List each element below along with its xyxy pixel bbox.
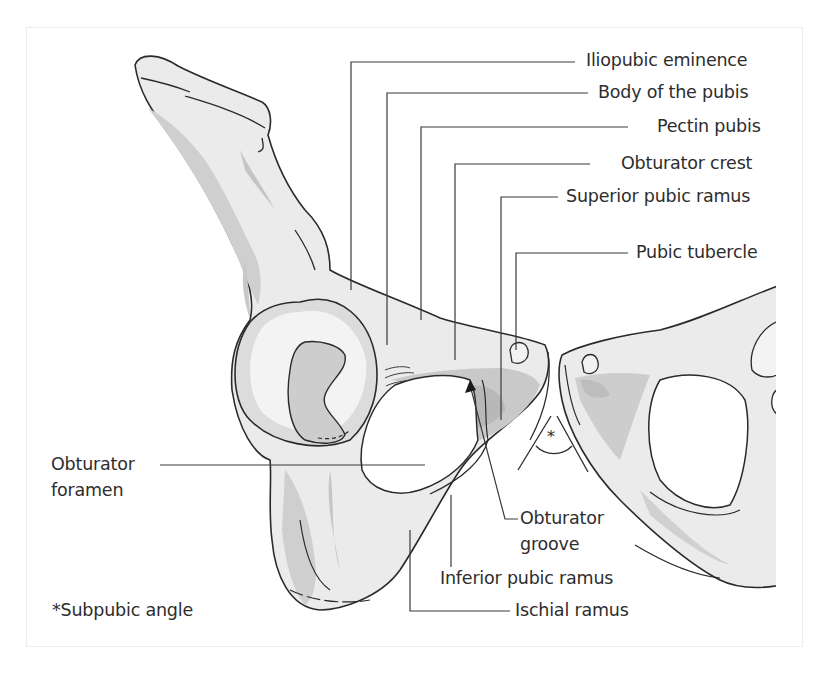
leader-body-of-pubis bbox=[387, 93, 588, 345]
label-obturator-foramen-line1: Obturator bbox=[51, 454, 135, 475]
label-iliopubic-eminence: Iliopubic eminence bbox=[586, 50, 747, 71]
left-hip-bone bbox=[135, 56, 549, 610]
label-superior-pubic-ramus: Superior pubic ramus bbox=[566, 186, 750, 207]
legend-subpubic-angle: *Subpubic angle bbox=[52, 600, 193, 621]
label-obturator-foramen-line2: foramen bbox=[51, 480, 123, 501]
leader-pectin-pubis bbox=[421, 127, 628, 320]
label-obturator-crest: Obturator crest bbox=[621, 153, 752, 174]
right-hip-bone bbox=[559, 285, 800, 588]
label-obturator-groove-line2: groove bbox=[520, 534, 579, 555]
legend-text: Subpubic angle bbox=[61, 600, 193, 620]
label-inferior-pubic-ramus: Inferior pubic ramus bbox=[440, 568, 613, 589]
label-pectin-pubis: Pectin pubis bbox=[657, 116, 761, 137]
label-ischial-ramus: Ischial ramus bbox=[515, 600, 629, 621]
label-obturator-groove-line1: Obturator bbox=[520, 508, 604, 529]
pubic-tubercle-bump bbox=[510, 343, 528, 364]
angle-asterisk: * bbox=[547, 426, 555, 447]
legend-symbol: * bbox=[52, 600, 61, 620]
leader-iliopubic-eminence bbox=[351, 62, 575, 290]
leader-pubic-tubercle bbox=[516, 253, 628, 350]
label-pubic-tubercle: Pubic tubercle bbox=[636, 242, 758, 263]
label-body-of-pubis: Body of the pubis bbox=[598, 82, 748, 103]
